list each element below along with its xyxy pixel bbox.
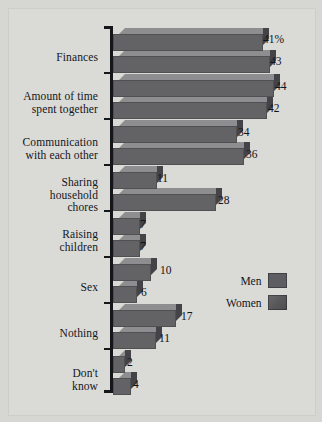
chart-legend: Men Women — [226, 272, 287, 316]
bar-face-front — [113, 102, 267, 119]
legend-label-women: Women — [226, 297, 261, 309]
bar-face-front — [113, 172, 157, 189]
value-sex-men: 10 — [160, 264, 172, 276]
axis-tick — [104, 348, 113, 350]
label-dont-know: Don't know — [0, 367, 98, 392]
legend-item-men: Men — [226, 272, 287, 289]
label-raising-children: Raising children — [0, 228, 98, 253]
label-nothing: Nothing — [0, 327, 98, 340]
value-communication-men: 34 — [238, 126, 250, 138]
label-line: Raising — [0, 228, 98, 241]
bar-face-front — [113, 194, 216, 211]
bar-face-front — [113, 310, 176, 327]
label-finances: Finances — [0, 51, 98, 64]
label-line: Nothing — [0, 327, 98, 340]
label-sex: Sex — [0, 281, 98, 294]
label-line: with each other — [0, 149, 98, 162]
value-nothing-women: 11 — [159, 332, 170, 344]
axis-tick — [104, 72, 113, 74]
label-line: Don't — [0, 367, 98, 380]
axis-cap-top — [104, 26, 113, 29]
bar-face-front — [113, 332, 156, 349]
label-line: Communication — [0, 136, 98, 149]
value-chores-men: 11 — [157, 172, 168, 184]
bar-face-front — [113, 148, 244, 165]
chart-container: Finances Amount of time spent together C… — [0, 0, 332, 432]
bar-face-front — [113, 264, 151, 281]
value-communication-women: 36 — [246, 148, 258, 160]
label-sharing-chores: Sharing household chores — [0, 176, 98, 214]
bar-face-front — [113, 286, 137, 303]
value-finances-women: 43 — [270, 55, 282, 67]
value-sex-women: 6 — [141, 286, 147, 298]
label-amount-of-time: Amount of time spent together — [0, 90, 98, 115]
bar-face-front — [113, 240, 140, 257]
value-dontknow-women: 4 — [133, 378, 139, 390]
label-line: children — [0, 241, 98, 254]
legend-item-women: Women — [226, 294, 287, 311]
value-children-men: 7 — [140, 218, 146, 230]
legend-swatch-men-icon — [268, 273, 287, 288]
axis-tick — [104, 302, 113, 304]
label-line: household — [0, 189, 98, 202]
bar-face-front — [113, 56, 270, 73]
value-nothing-men: 17 — [181, 310, 193, 322]
value-finances-men: 41% — [263, 33, 284, 45]
axis-tick — [104, 256, 113, 258]
bar-face-front — [113, 378, 131, 395]
label-line: Sharing — [0, 176, 98, 189]
bar-face-front — [113, 126, 237, 143]
axis-tick — [104, 210, 113, 212]
value-time-men: 44 — [275, 80, 287, 92]
bar-face-front — [113, 80, 274, 97]
label-communication: Communication with each other — [0, 136, 98, 161]
bar-face-front — [113, 34, 263, 51]
label-line: Sex — [0, 281, 98, 294]
label-line: chores — [0, 201, 98, 214]
value-children-women: 7 — [140, 240, 146, 252]
bar-face-front — [113, 218, 140, 235]
label-line: spent together — [0, 103, 98, 116]
bar-face-front — [113, 356, 125, 373]
category-axis-line — [110, 26, 113, 392]
label-line: know — [0, 380, 98, 393]
value-time-women: 42 — [268, 102, 280, 114]
axis-tick — [104, 118, 113, 120]
legend-label-men: Men — [240, 275, 261, 287]
value-dontknow-men: 2 — [127, 356, 133, 368]
value-chores-women: 28 — [218, 194, 230, 206]
axis-tick — [104, 164, 113, 166]
axis-cap-bottom — [104, 390, 113, 393]
label-line: Amount of time — [0, 90, 98, 103]
label-line: Finances — [0, 51, 98, 64]
legend-swatch-women-icon — [268, 295, 287, 310]
